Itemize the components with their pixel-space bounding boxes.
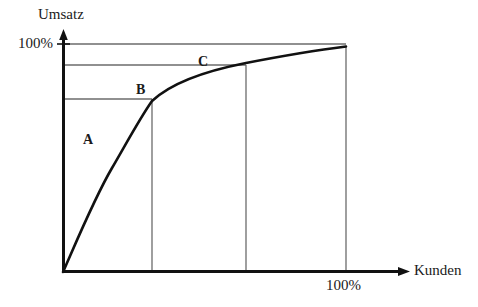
segment-label-c: C (198, 54, 208, 70)
segment-label-b: B (136, 82, 145, 98)
y-axis-tick-label-100: 100% (18, 35, 53, 52)
x-axis-tick-label-100: 100% (326, 277, 361, 294)
y-axis-arrow-icon (59, 29, 68, 40)
abc-analysis-chart: Umsatz 100% 100% Kunden A B C (0, 0, 478, 307)
chart-canvas (0, 0, 478, 307)
x-axis-title: Kunden (414, 262, 462, 279)
x-axis-arrow-icon (398, 267, 410, 276)
lorenz-curve (63, 47, 346, 273)
x-axis (63, 267, 410, 276)
y-axis-title: Umsatz (38, 6, 84, 23)
guide-lines (63, 44, 346, 272)
segment-label-a: A (83, 132, 93, 148)
